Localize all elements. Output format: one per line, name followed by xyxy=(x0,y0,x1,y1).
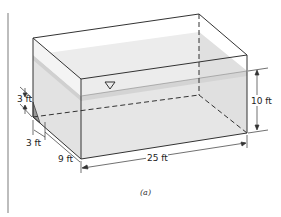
slope-run-label: 3 ft xyxy=(26,138,42,148)
slope-height-label: 3 ft xyxy=(17,94,33,104)
water-volume xyxy=(33,32,247,159)
depth-label: 10 ft xyxy=(251,96,272,106)
margin-bar xyxy=(7,13,9,213)
width-label: 9 ft xyxy=(58,154,74,164)
tank-diagram: 10 ft 25 ft 9 ft 3 ft 3 ft (a) xyxy=(0,0,281,217)
length-label: 25 ft xyxy=(147,153,168,163)
figure-caption: (a) xyxy=(140,188,151,197)
